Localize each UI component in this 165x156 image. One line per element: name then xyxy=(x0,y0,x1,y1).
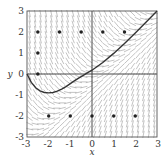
slope-segment xyxy=(130,58,135,64)
slope-segment xyxy=(33,100,38,106)
slope-segment xyxy=(102,49,108,52)
slope-segment xyxy=(98,95,102,101)
slope-segment xyxy=(119,59,125,63)
x-tick-label: -2 xyxy=(44,139,53,149)
slope-segment xyxy=(120,11,124,17)
slope-segment xyxy=(60,121,65,126)
slope-segment xyxy=(120,74,124,80)
slope-segment xyxy=(102,70,108,73)
slope-segment xyxy=(131,63,135,69)
slope-segment xyxy=(119,22,124,27)
slope-segment xyxy=(93,37,97,43)
y-tick-label: 0 xyxy=(18,69,24,79)
slope-segment xyxy=(55,74,59,80)
slope-segment xyxy=(60,79,65,84)
slope-segment xyxy=(76,101,82,105)
slope-segment xyxy=(146,28,152,31)
slope-segment xyxy=(70,106,76,110)
x-axis-label: x xyxy=(89,147,94,156)
slope-segment xyxy=(147,47,151,53)
slope-segment xyxy=(27,105,32,111)
slope-segment xyxy=(70,69,75,74)
marked-point xyxy=(134,114,137,117)
slope-segment xyxy=(108,74,113,79)
slope-segment xyxy=(108,69,114,73)
slope-segment xyxy=(113,64,119,68)
marked-point xyxy=(69,114,72,117)
slope-segment xyxy=(125,58,130,63)
marked-point xyxy=(80,30,83,33)
slope-segment xyxy=(76,69,82,73)
slope-segment xyxy=(93,100,97,106)
slope-segment xyxy=(76,53,80,59)
marked-point xyxy=(101,30,104,33)
slope-segment xyxy=(129,44,135,47)
slope-segment xyxy=(60,126,65,132)
slope-segment xyxy=(130,17,136,21)
slope-segment xyxy=(76,64,81,69)
slope-segment xyxy=(98,90,103,96)
slope-segment xyxy=(146,37,151,42)
y-axis-label: y xyxy=(6,69,13,79)
slope-segment xyxy=(60,68,64,74)
slope-segment xyxy=(114,21,119,27)
slope-segment xyxy=(87,42,91,48)
slope-segment xyxy=(75,96,81,99)
slope-segment xyxy=(92,54,98,58)
slope-segment xyxy=(59,112,65,115)
marked-point xyxy=(36,30,39,33)
slope-segment xyxy=(49,132,54,137)
slope-segment xyxy=(55,79,60,85)
slope-segment xyxy=(120,69,125,75)
slope-segment xyxy=(114,27,119,32)
slope-segment xyxy=(136,53,141,59)
slope-segment xyxy=(124,54,130,58)
marked-point xyxy=(36,72,39,75)
slope-segment xyxy=(103,75,109,79)
slope-segment xyxy=(49,84,54,90)
slope-segment xyxy=(43,101,49,105)
x-tick-label: 1 xyxy=(111,139,117,149)
slope-segment xyxy=(70,75,76,79)
slope-segment xyxy=(109,84,113,90)
slope-segment xyxy=(97,75,103,78)
slope-segment xyxy=(44,84,48,90)
slope-segment xyxy=(81,70,87,73)
slope-segment xyxy=(92,42,97,48)
y-tick-label: 1 xyxy=(18,48,24,58)
slope-segment xyxy=(125,16,130,21)
slope-segment xyxy=(43,107,49,110)
slope-segment xyxy=(43,95,48,100)
slope-segment xyxy=(152,37,157,43)
y-tick-label: 3 xyxy=(18,6,24,16)
slope-segment xyxy=(71,58,75,64)
slope-segment xyxy=(113,38,119,41)
slope-segment xyxy=(135,43,141,47)
slope-segment xyxy=(86,59,92,63)
slope-segment xyxy=(48,127,54,131)
x-tick-label: 3 xyxy=(155,139,161,149)
slope-segment xyxy=(130,11,135,16)
slope-segment xyxy=(135,12,141,16)
slope-segment xyxy=(97,80,103,84)
slope-segment xyxy=(59,91,65,94)
y-tick-label: 2 xyxy=(18,27,24,37)
slope-segment xyxy=(66,126,70,132)
slope-segment xyxy=(87,48,92,54)
slope-segment xyxy=(113,33,119,37)
slope-segment xyxy=(49,79,53,85)
slope-segment xyxy=(141,48,146,54)
x-tick-label: -1 xyxy=(66,139,75,149)
slope-segment xyxy=(81,58,86,63)
slope-segment xyxy=(108,65,114,68)
slope-segment xyxy=(103,84,108,90)
slope-segment xyxy=(60,131,64,137)
slope-segment xyxy=(97,48,103,52)
slope-segment xyxy=(32,111,38,115)
slope-segment xyxy=(71,63,76,69)
slope-segment xyxy=(135,17,141,20)
slope-segment xyxy=(38,100,43,105)
slope-segment xyxy=(152,42,156,48)
slope-segment xyxy=(65,121,70,127)
slope-segment xyxy=(125,63,130,69)
